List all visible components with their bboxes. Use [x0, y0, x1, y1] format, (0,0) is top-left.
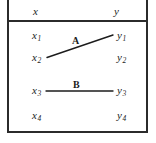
- right-item-y4-subscript: 4: [122, 114, 126, 123]
- right-item-y1: y1: [117, 30, 126, 42]
- right-item-y1-subscript: 1: [122, 34, 126, 43]
- left-item-x1: x1: [32, 30, 41, 42]
- edge-label-B: B: [73, 80, 80, 90]
- left-item-x3: x3: [32, 85, 41, 97]
- right-item-y3: y3: [117, 85, 126, 97]
- left-item-x2: x2: [32, 52, 41, 64]
- relation-diagram-figure: x y A B x1 x2 x3 x4 y1 y2 y3 y4: [0, 0, 156, 143]
- left-item-x2-subscript: 2: [37, 56, 41, 65]
- edge-label-A: A: [72, 36, 79, 46]
- left-item-x1-subscript: 1: [37, 34, 41, 43]
- right-item-y3-subscript: 3: [122, 89, 126, 98]
- right-item-y2-subscript: 2: [122, 56, 126, 65]
- right-item-y2: y2: [117, 52, 126, 64]
- left-item-x4: x4: [32, 110, 41, 122]
- column-header-y: y: [114, 6, 119, 17]
- left-item-x4-subscript: 4: [37, 114, 41, 123]
- column-header-x: x: [33, 6, 38, 17]
- header-divider-line: [7, 20, 148, 22]
- right-item-y4: y4: [117, 110, 126, 122]
- left-item-x3-subscript: 3: [37, 89, 41, 98]
